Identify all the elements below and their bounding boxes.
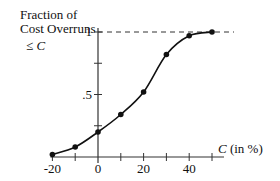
x-axis-title: C (in %) bbox=[218, 141, 263, 156]
axes bbox=[50, 28, 224, 163]
y-tick-label: .5 bbox=[82, 87, 92, 102]
y-axis-title-line: Fraction of bbox=[20, 7, 78, 22]
x-tick-label: 20 bbox=[137, 161, 150, 176]
data-point bbox=[95, 129, 101, 135]
data-point bbox=[209, 29, 215, 35]
data-point bbox=[50, 152, 56, 158]
x-tick-label: 0 bbox=[95, 161, 102, 176]
data-point bbox=[186, 33, 192, 39]
data-point bbox=[118, 112, 124, 118]
series-group bbox=[50, 29, 215, 157]
data-point bbox=[72, 144, 78, 150]
data-point bbox=[164, 52, 170, 58]
cdf-chart: -2002040.51Fraction ofCost Overruns≤ CC … bbox=[0, 0, 280, 181]
series-line bbox=[52, 32, 212, 155]
x-tick-label: -20 bbox=[44, 161, 61, 176]
data-point bbox=[141, 89, 147, 95]
y-axis-title-line: Cost Overruns bbox=[20, 21, 95, 36]
x-tick-label: 40 bbox=[183, 161, 196, 176]
y-axis-title-condition: ≤ C bbox=[26, 38, 45, 53]
